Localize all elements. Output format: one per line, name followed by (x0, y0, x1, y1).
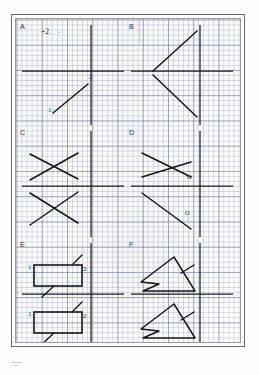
segment-1-2 (53, 84, 88, 113)
chevron-upper-arm (153, 31, 197, 71)
segment-endpoint-label-1: 1 (48, 107, 52, 114)
panel-c-figure (20, 129, 128, 239)
arrow-triangle-lower-tail (181, 312, 194, 320)
panel-e: E 1 2 1 2 (20, 241, 128, 343)
panel-b-figure (129, 23, 237, 127)
rectangle-lower-tick-b (42, 333, 54, 343)
rectangle-lower (34, 312, 82, 333)
panel-f-figure (129, 241, 237, 343)
rect-upper-label-1: 1 (28, 264, 32, 271)
stray-pencil-mark-secondary (13, 365, 18, 366)
arrow-triangle-upper-tail (181, 265, 194, 273)
scanned-page: A +2 1 2 B (0, 0, 259, 375)
rectangle-upper-tick-b (42, 286, 54, 297)
diagonal-lower (142, 193, 191, 229)
panel-e-figure (20, 241, 128, 343)
stray-pencil-mark (12, 362, 21, 363)
page-border-frame: A +2 1 2 B (11, 14, 245, 347)
chevron-lower-arm (153, 75, 197, 117)
origin-marker-lower: O (185, 210, 190, 217)
rect-upper-label-2: 2 (83, 266, 87, 273)
panel-a-figure (20, 23, 128, 127)
segment-endpoint-label-2: 2 (89, 74, 93, 81)
rectangle-lower-tick-a (73, 302, 82, 311)
arrow-triangle-lower (141, 304, 195, 338)
rectangle-upper-tick-a (73, 255, 82, 264)
rectangle-upper (34, 265, 82, 286)
panel-b: B (129, 23, 237, 127)
panel-f: F (129, 241, 237, 343)
origin-marker-upper: O (187, 174, 192, 181)
panel-c: C (20, 129, 128, 239)
rect-lower-label-2: 2 (83, 313, 87, 320)
rect-lower-label-1: 1 (28, 311, 32, 318)
panel-a: A +2 1 2 (20, 23, 128, 127)
panel-d: D O O (129, 129, 237, 239)
page-border-inner: A +2 1 2 B (15, 18, 241, 343)
arrow-triangle-upper (141, 257, 195, 291)
panel-d-figure (129, 129, 237, 239)
